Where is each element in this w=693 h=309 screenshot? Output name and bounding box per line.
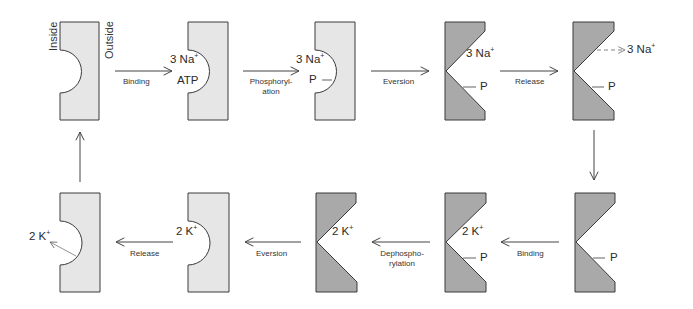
s5-p-label: P [608,80,616,92]
b1-k-released-label: 2 K+ [29,230,50,242]
charge-sup: + [349,224,353,231]
step-binding-bottom: Binding [517,249,544,259]
s2-na-label: 3 Na+ [170,53,198,65]
pump-state-b4-k-bound [445,193,486,292]
step-eversion-top: Eversion [383,77,414,87]
pump-state-5-na-released [573,22,614,120]
s4-p-label: P [480,80,488,92]
charge-sup: + [479,224,483,231]
pump-state-b3-dephosphorylated [316,193,357,292]
b2-k-label: 2 K+ [176,225,197,237]
pump-state-3-phosphorylated [315,22,355,120]
charge-sup: + [490,46,494,53]
step-phosphorylation: Phosphoryl-ation [243,77,299,97]
inside-label: Inside [47,22,59,51]
k-text: 2 K [176,225,193,237]
k-text: 2 K [462,225,479,237]
step-binding-top: Binding [123,77,150,87]
s3-p-label: P [309,73,317,85]
pump-state-4-everted [445,22,485,120]
step-release-bottom: Release [130,249,159,259]
step-line-2: rylation [371,259,433,269]
step-line-2: ation [243,87,299,97]
charge-sup: + [46,229,50,236]
charge-sup: + [320,52,324,59]
charge-sup: + [194,52,198,59]
s2-atp-label: ATP [177,74,199,86]
step-dephosphorylation: Dephospho-rylation [371,249,433,269]
k-release-arrow [50,242,76,256]
step-line-1: Phosphoryl- [243,77,299,87]
na-text: 3 Na [170,53,194,65]
b5-p-label: P [610,251,618,263]
na-text: 3 Na [627,43,651,55]
pump-state-1-inward-empty [60,22,99,120]
na-text: 3 Na [466,47,490,59]
step-release-top: Release [515,77,544,87]
pump-state-b1-k-released [60,193,100,292]
b3-k-label: 2 K+ [332,225,353,237]
charge-sup: + [193,224,197,231]
step-line-1: Dephospho- [371,249,433,259]
s5-na-released-label: 3 Na+ [627,43,655,55]
b4-k-label: 2 K+ [462,225,483,237]
s3-na-label: 3 Na+ [296,53,324,65]
charge-sup: + [651,42,655,49]
k-text: 2 K [332,225,349,237]
na-text: 3 Na [296,53,320,65]
b4-p-label: P [480,251,488,263]
outside-label: Outside [103,21,115,59]
pump-state-2-na-atp-bound [188,22,228,120]
pump-state-b2-inward-k [188,193,229,292]
step-eversion-bottom: Eversion [256,249,287,259]
s4-na-label: 3 Na+ [466,47,494,59]
k-text: 2 K [29,230,46,242]
pump-state-b5-phosphorylated-empty [575,193,615,292]
